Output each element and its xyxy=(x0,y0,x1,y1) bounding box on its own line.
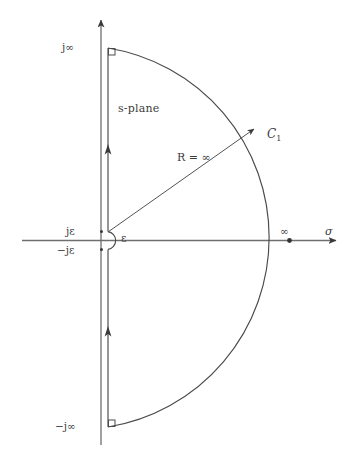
label-infinity: ∞ xyxy=(280,226,289,237)
label-radius-infinity: R = ∞ xyxy=(177,152,211,163)
s-plane-contour-figure: j∞ −j∞ jε −jε ε s-plane R = ∞ C1 ∞ σ xyxy=(0,0,354,463)
label-s-plane: s-plane xyxy=(118,103,159,114)
arc-real-axis-intersection-dot xyxy=(287,238,292,243)
label-contour-c1-subscript: 1 xyxy=(276,134,281,143)
label-j-infinity: j∞ xyxy=(62,42,74,53)
label-minus-j-epsilon: −jε xyxy=(57,245,75,256)
contour-drawing-canvas xyxy=(0,0,354,463)
tick-minus-j-epsilon xyxy=(100,248,103,251)
label-epsilon: ε xyxy=(121,233,126,244)
label-j-epsilon: jε xyxy=(66,226,75,237)
tick-j-epsilon xyxy=(100,230,103,233)
label-contour-c1-name: C xyxy=(267,127,276,141)
label-minus-j-infinity: −j∞ xyxy=(55,421,76,432)
label-contour-c1: C1 xyxy=(267,128,281,143)
radius-pointer-line xyxy=(108,129,254,232)
label-sigma-axis: σ xyxy=(325,226,333,237)
right-angle-marker-group xyxy=(109,49,116,427)
